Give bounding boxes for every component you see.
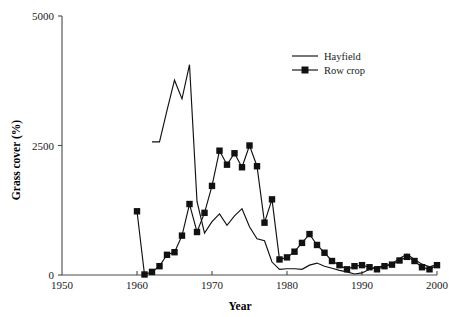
x-tick-label-2000: 2000 <box>426 279 449 291</box>
y-tick-label-5000: 5000 <box>32 10 55 22</box>
legend-marker-square-row-crop <box>302 67 309 74</box>
data-point-row-crop-1968 <box>194 229 200 235</box>
series-line-hayfield <box>152 65 437 274</box>
data-point-row-crop-1977 <box>261 219 267 225</box>
data-point-row-crop-1966 <box>179 232 185 238</box>
data-point-row-crop-1979 <box>276 256 282 262</box>
x-axis-title: Year <box>229 300 252 312</box>
x-tick-label-1980: 1980 <box>276 279 299 291</box>
data-point-row-crop-1973 <box>231 150 237 156</box>
data-point-row-crop-1976 <box>254 163 260 169</box>
data-point-row-crop-1963 <box>156 263 162 269</box>
data-point-row-crop-1978 <box>269 196 275 202</box>
data-point-row-crop-1994 <box>389 261 395 267</box>
data-point-row-crop-1971 <box>216 147 222 153</box>
data-point-row-crop-1970 <box>209 183 215 189</box>
y-axis-title: Grass cover (%) <box>10 120 23 200</box>
data-point-row-crop-1996 <box>404 254 410 260</box>
y-tick-labels: 025005000 <box>32 10 55 281</box>
x-tick-label-1950: 1950 <box>51 279 74 291</box>
data-point-row-crop-1988 <box>344 266 350 272</box>
data-point-row-crop-1982 <box>299 240 305 246</box>
x-tick-labels: 195019601970198019902000 <box>51 279 449 291</box>
data-point-row-crop-1964 <box>164 252 170 258</box>
data-point-row-crop-1986 <box>329 258 335 264</box>
data-point-row-crop-1967 <box>186 201 192 207</box>
data-point-row-crop-1985 <box>321 250 327 256</box>
data-point-row-crop-1969 <box>201 210 207 216</box>
series-hayfield <box>152 65 437 274</box>
data-point-row-crop-1989 <box>351 263 357 269</box>
data-point-row-crop-1974 <box>239 164 245 170</box>
chart-legend: Hayfield Row crop <box>292 51 365 76</box>
data-point-row-crop-1993 <box>381 263 387 269</box>
data-point-row-crop-1961 <box>141 271 147 277</box>
data-point-row-crop-1975 <box>246 142 252 148</box>
data-point-row-crop-1987 <box>336 262 342 268</box>
y-tick-label-2500: 2500 <box>32 140 55 152</box>
x-tick-label-1970: 1970 <box>201 279 224 291</box>
data-series <box>134 65 440 278</box>
data-point-row-crop-1995 <box>396 257 402 263</box>
data-point-row-crop-1991 <box>366 264 372 270</box>
data-point-row-crop-1981 <box>291 248 297 254</box>
data-point-row-crop-1962 <box>149 269 155 275</box>
y-tick-marks <box>58 16 62 275</box>
data-point-row-crop-1965 <box>171 249 177 255</box>
data-point-row-crop-1960 <box>134 208 140 214</box>
data-point-row-crop-1990 <box>359 262 365 268</box>
legend-label-hayfield: Hayfield <box>324 51 361 62</box>
data-point-row-crop-1997 <box>411 258 417 264</box>
x-tick-label-1990: 1990 <box>351 279 374 291</box>
chart-figure: 025005000 195019601970198019902000 Grass… <box>0 0 449 317</box>
data-point-row-crop-1983 <box>306 231 312 237</box>
data-point-row-crop-1998 <box>419 264 425 270</box>
data-point-row-crop-1984 <box>314 242 320 248</box>
series-row-crop <box>134 142 440 277</box>
data-point-row-crop-1999 <box>426 266 432 272</box>
x-tick-marks <box>137 271 437 275</box>
data-point-row-crop-1980 <box>284 254 290 260</box>
legend-label-row-crop: Row crop <box>324 65 365 76</box>
grass-cover-line-chart: 025005000 195019601970198019902000 Grass… <box>0 0 449 317</box>
data-point-row-crop-2000 <box>434 262 440 268</box>
data-point-row-crop-1992 <box>374 266 380 272</box>
data-point-row-crop-1972 <box>224 161 230 167</box>
x-tick-label-1960: 1960 <box>126 279 149 291</box>
